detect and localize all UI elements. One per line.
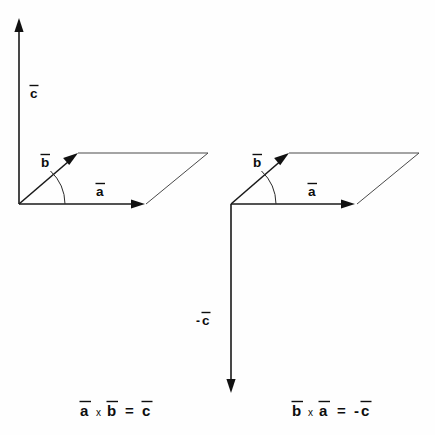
- right-caption: b x a = - c: [292, 402, 372, 420]
- right-label-b: b: [253, 155, 263, 171]
- right-vector-a: [231, 199, 355, 208]
- right-caption-operator: x: [308, 407, 313, 418]
- right-caption-minus: -: [354, 402, 360, 419]
- right-label-a: a: [308, 184, 318, 200]
- left-a-arrowhead: [131, 199, 145, 208]
- left-label-a-text: a: [96, 184, 104, 199]
- right-label-minus-c-text: c: [202, 313, 210, 328]
- right-caption-a: a: [319, 402, 328, 419]
- right-caption-c: c: [361, 402, 370, 419]
- vector-cross-product-diagram: c b a: [0, 0, 435, 435]
- right-caption-equals: =: [337, 402, 346, 419]
- left-caption-c: c: [142, 402, 151, 419]
- right-label-minus-c: - c: [196, 313, 211, 329]
- left-vector-a: [19, 199, 145, 208]
- right-label-minus-c-sign: -: [196, 314, 200, 328]
- left-vector-c: [14, 18, 23, 204]
- figure-root: c b a: [0, 0, 435, 435]
- right-a-arrowhead: [341, 199, 355, 208]
- left-caption: a x b = c: [80, 402, 153, 420]
- right-label-a-text: a: [308, 184, 316, 199]
- left-label-c-text: c: [30, 86, 38, 101]
- left-c-arrowhead: [14, 18, 23, 32]
- left-caption-equals: =: [125, 402, 134, 419]
- right-parallelogram-right-edge: [357, 153, 419, 204]
- left-label-b-text: b: [41, 155, 49, 170]
- left-label-c: c: [30, 86, 39, 102]
- left-caption-b: b: [107, 402, 117, 419]
- left-diagram-group: c b a: [14, 18, 208, 209]
- right-label-b-text: b: [253, 155, 261, 170]
- left-caption-operator: x: [96, 407, 101, 418]
- right-vector-minus-c: [226, 204, 235, 393]
- left-label-b: b: [41, 155, 51, 171]
- right-b-arrowhead: [274, 153, 289, 165]
- right-caption-b: b: [292, 402, 302, 419]
- left-caption-a: a: [80, 402, 89, 419]
- right-diagram-group: b a - c: [196, 153, 419, 393]
- left-parallelogram-right-edge: [146, 153, 208, 204]
- left-label-a: a: [96, 184, 106, 200]
- right-minus-c-arrowhead: [226, 379, 235, 393]
